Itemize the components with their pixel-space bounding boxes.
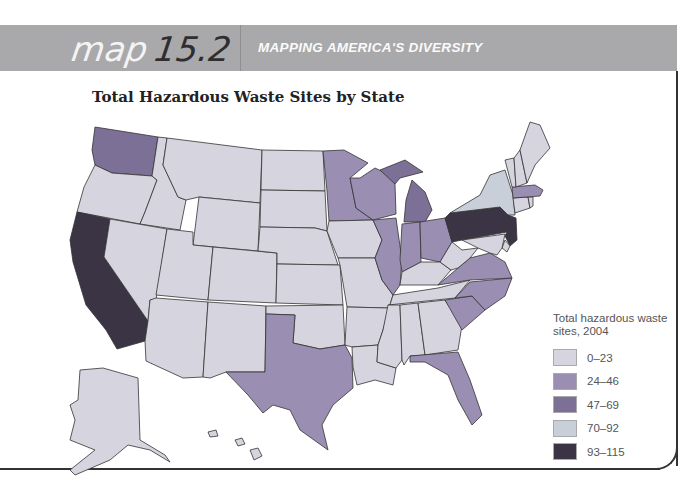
state-CO (208, 247, 277, 303)
legend-title: Total hazardous waste sites, 2004 (553, 312, 673, 338)
state-SD (260, 190, 327, 231)
legend-title-line2: sites, 2004 (553, 325, 673, 338)
legend-swatch (553, 396, 577, 413)
legend-swatch (553, 420, 577, 437)
state-AK (70, 368, 170, 475)
legend-item: 93–115 (553, 440, 673, 464)
legend-item: 0–23 (553, 346, 673, 370)
legend-label: 0–23 (587, 352, 613, 364)
legend: Total hazardous waste sites, 2004 0–23 2… (553, 312, 673, 464)
legend-title-line1: Total hazardous waste (553, 312, 673, 325)
state-IA (327, 220, 382, 258)
legend-label: 70–92 (587, 422, 619, 434)
legend-label: 93–115 (587, 446, 625, 458)
state-KS (276, 264, 343, 305)
legend-label: 24–46 (587, 375, 619, 387)
state-FL (410, 352, 482, 425)
legend-swatch (553, 349, 577, 366)
legend-item: 24–46 (553, 370, 673, 394)
legend-item: 47–69 (553, 393, 673, 417)
state-AZ (145, 298, 208, 378)
legend-swatch (553, 443, 577, 460)
legend-item: 70–92 (553, 417, 673, 441)
state-HI (208, 430, 262, 460)
state-MT (163, 138, 262, 203)
state-WY (193, 197, 260, 251)
legend-swatch (553, 373, 577, 390)
state-NY (450, 170, 515, 215)
state-ND (261, 150, 325, 191)
state-CT (513, 197, 530, 213)
state-NM (203, 302, 266, 378)
legend-label: 47–69 (587, 399, 619, 411)
